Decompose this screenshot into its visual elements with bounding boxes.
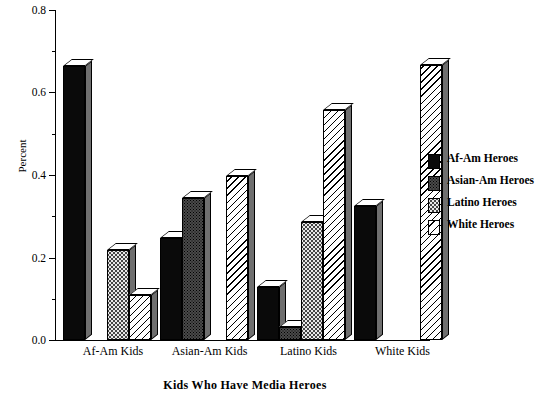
diagonal-hatch-swatch bbox=[428, 220, 440, 235]
y-axis-tick-labels: 0.8 0.6 0.4 0.2 0.0 bbox=[0, 0, 46, 404]
x-axis-title: Kids Who Have Media Heroes bbox=[0, 378, 545, 393]
bar-group-af-am-kids bbox=[63, 10, 151, 340]
y-tick-label: 0.6 bbox=[0, 86, 46, 98]
y-tick-label: 0.2 bbox=[0, 252, 46, 264]
legend-item-asian-am-heroes: Asian-Am Heroes bbox=[428, 174, 543, 196]
legend-item-latino-heroes: Latino Heroes bbox=[428, 196, 543, 218]
legend-label: Af-Am Heroes bbox=[447, 152, 518, 164]
light-dotted-swatch bbox=[428, 198, 440, 213]
x-axis-title-text: Kids Who Have Media Heroes bbox=[163, 378, 326, 393]
legend-label: White Heroes bbox=[447, 218, 514, 230]
x-tick-label-latino-kids: Latino Kids bbox=[261, 344, 356, 359]
legend-label: Latino Heroes bbox=[447, 196, 517, 208]
y-tick-label: 0.8 bbox=[0, 4, 46, 16]
y-tick-label: 0.0 bbox=[0, 334, 46, 346]
legend-label: Asian-Am Heroes bbox=[447, 174, 534, 186]
dark-dotted-swatch bbox=[428, 176, 440, 191]
legend-item-af-am-heroes: Af-Am Heroes bbox=[428, 152, 543, 174]
chart-legend: Af-Am Heroes Asian-Am Heroes Latino Hero… bbox=[428, 152, 543, 240]
x-axis-line bbox=[55, 340, 430, 341]
x-tick-label-asian-am-kids: Asian-Am Kids bbox=[157, 344, 262, 359]
legend-item-white-heroes: White Heroes bbox=[428, 218, 543, 240]
x-tick-label-af-am-kids: Af-Am Kids bbox=[63, 344, 163, 359]
chart-figure: 0.8 0.6 0.4 0.2 0.0 Percent bbox=[0, 0, 545, 404]
bar-group-asian-am-kids bbox=[160, 10, 248, 340]
bar-group-latino-kids bbox=[257, 10, 345, 340]
solid-black-swatch bbox=[428, 154, 440, 169]
y-axis-title: Percent bbox=[16, 116, 28, 196]
x-tick-label-white-kids: White Kids bbox=[355, 344, 450, 359]
plot-area bbox=[55, 10, 430, 340]
